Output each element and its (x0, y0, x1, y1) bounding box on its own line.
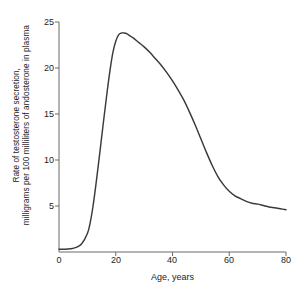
axis-lines (59, 22, 286, 252)
chart-figure: Rate of testosterone secretion, milligra… (0, 0, 303, 295)
plot-svg (0, 0, 303, 295)
data-line-testosterone (59, 33, 286, 249)
tick-marks (55, 22, 286, 256)
